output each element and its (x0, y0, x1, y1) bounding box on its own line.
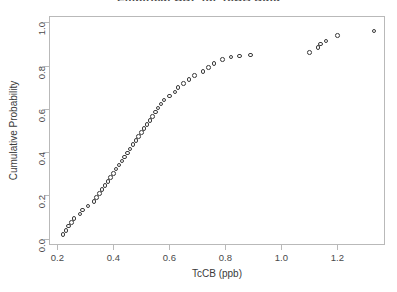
data-point (150, 114, 155, 119)
data-point (114, 167, 119, 172)
data-point (220, 57, 225, 62)
data-point (78, 212, 83, 217)
y-axis-tick-label: 0.2 (36, 195, 47, 208)
data-point (156, 106, 161, 111)
x-axis-tick (281, 245, 282, 250)
data-point (134, 138, 139, 143)
x-axis-tick-label: 1.0 (275, 252, 288, 263)
x-axis-tick (337, 245, 338, 250)
data-point (111, 171, 116, 176)
x-axis-tick-label: 0.2 (51, 252, 64, 263)
y-axis-tick-label: 0.6 (36, 109, 47, 122)
x-axis-tick (57, 245, 58, 250)
data-point (64, 228, 69, 233)
data-point (125, 151, 130, 156)
data-point (201, 69, 206, 74)
y-axis-label: Cumulative Probability (8, 16, 20, 245)
data-point (72, 216, 77, 221)
data-point (162, 98, 167, 103)
data-point (187, 77, 192, 82)
data-point (131, 142, 136, 147)
data-point (206, 65, 211, 70)
data-point (80, 208, 85, 213)
data-point (212, 61, 217, 66)
x-axis-tick-label: 0.6 (163, 252, 176, 263)
y-axis-tick-label: 0.8 (36, 66, 47, 79)
data-point (335, 33, 340, 38)
data-point (142, 126, 147, 131)
data-point (94, 195, 99, 200)
data-point (307, 50, 312, 55)
data-point (192, 73, 197, 78)
chart-figure: Empirical CDF for TcCB Data 0.20.40.60.8… (0, 0, 397, 292)
data-point (153, 110, 158, 115)
data-point (117, 163, 122, 168)
data-point (92, 199, 97, 204)
data-point (108, 175, 113, 180)
data-point (237, 54, 242, 59)
data-point (136, 134, 141, 139)
x-axis-tick-label: 1.2 (331, 252, 344, 263)
data-point (176, 85, 181, 90)
data-point (69, 220, 74, 225)
data-point (148, 118, 153, 123)
data-point (248, 53, 253, 58)
data-point (145, 122, 150, 127)
data-point (106, 179, 111, 184)
y-axis-tick-label: 0.4 (36, 152, 47, 165)
data-point (100, 187, 105, 192)
data-point (159, 102, 164, 107)
y-axis-label-text: Cumulative Probability (9, 81, 20, 181)
x-axis-tick-label: 0.4 (107, 252, 120, 263)
data-point (86, 204, 91, 209)
data-point (372, 29, 377, 34)
x-axis-tick (113, 245, 114, 250)
chart-title: Empirical CDF for TcCB Data (0, 0, 397, 1)
y-axis-tick-label: 1.0 (36, 22, 47, 35)
x-axis-tick (169, 245, 170, 250)
y-axis-tick-label: 0.0 (36, 239, 47, 252)
scatter-data-layer (49, 16, 385, 245)
x-axis-label: TcCB (ppb) (49, 268, 385, 279)
data-point (324, 39, 329, 44)
data-point (128, 147, 133, 152)
data-point (120, 159, 125, 164)
data-point (229, 55, 234, 60)
data-point (173, 90, 178, 95)
data-point (167, 94, 172, 99)
data-point (122, 155, 127, 160)
data-point (61, 232, 66, 237)
data-point (103, 183, 108, 188)
data-point (318, 42, 323, 47)
data-point (181, 81, 186, 86)
x-axis-tick-label: 0.8 (219, 252, 232, 263)
x-axis-tick (225, 245, 226, 250)
